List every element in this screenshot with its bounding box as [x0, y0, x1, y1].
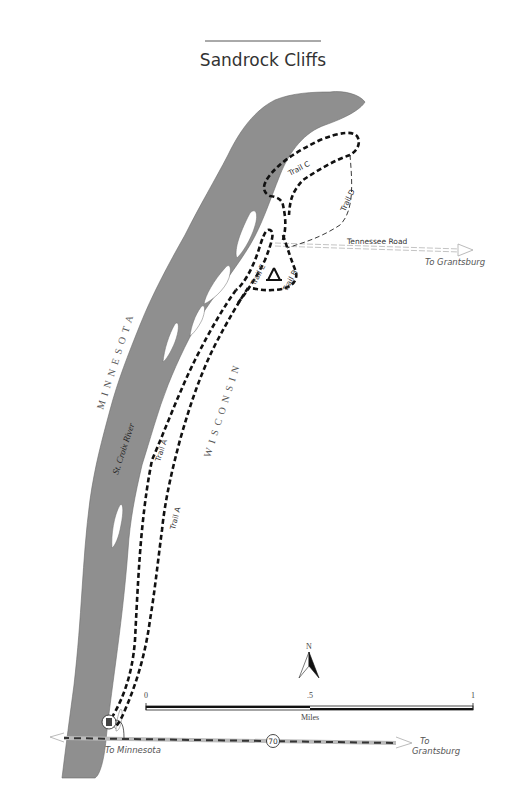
scale-tick-half: .5	[307, 691, 313, 700]
trail-a-label-2: Trail A	[168, 505, 183, 531]
to-grantsburg-east-line2: Grantsburg	[412, 746, 461, 756]
wisconsin-label: WISCONSIN	[201, 360, 243, 459]
trail-b-label: Trail B	[280, 269, 299, 294]
to-grantsburg-east-line1: To	[420, 736, 429, 746]
highway-number: 70	[268, 737, 278, 746]
trail-e-label: Trail E	[248, 263, 267, 288]
campsite-icon	[266, 268, 282, 280]
scale-bar	[146, 703, 473, 710]
sandrock-cliffs-map: Sandrock Cliffs Tennessee Road To Grants…	[0, 0, 507, 807]
road-arrow-icon	[458, 244, 473, 256]
road-arrow-east-icon	[396, 737, 412, 748]
north-label: N	[306, 642, 312, 651]
north-arrow-icon	[299, 652, 319, 678]
to-grantsburg-label: To Grantsburg	[425, 257, 486, 267]
scale-tick-1: 1	[471, 691, 475, 700]
trail-d-label: Trail D	[338, 188, 357, 214]
map-title: Sandrock Cliffs	[200, 50, 326, 70]
to-minnesota-label: To Minnesota	[105, 745, 161, 755]
trail-a-label: Trail A	[153, 437, 169, 463]
trail-c-label: Trail C	[286, 159, 311, 178]
tennessee-road-label: Tennessee Road	[346, 237, 408, 246]
road-arrow-west-icon	[50, 733, 64, 742]
scale-unit: Miles	[301, 713, 319, 722]
scale-tick-0: 0	[144, 691, 148, 700]
